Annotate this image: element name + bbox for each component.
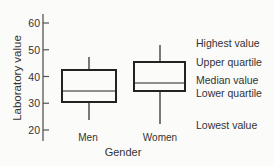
annotation-lower-quartile: Lower quartile xyxy=(196,87,262,99)
annotation-lowest-value: Lowest value xyxy=(196,119,257,131)
annotation-median-value: Median value xyxy=(196,74,259,86)
box-men xyxy=(62,57,116,120)
tick-label-50: 50 xyxy=(28,44,40,56)
tick-label-60: 60 xyxy=(28,17,40,29)
tick-label-30: 30 xyxy=(28,97,40,109)
box-women xyxy=(134,45,185,124)
category-label-men: Men xyxy=(78,132,97,143)
y-ticks xyxy=(43,23,49,130)
category-label-women: Women xyxy=(143,132,177,143)
tick-label-40: 40 xyxy=(28,71,40,83)
box-plot-chart: 60 50 40 30 20 Laboratory value Men Wome… xyxy=(0,0,274,166)
annotation-highest-value: Highest value xyxy=(196,37,260,49)
x-axis-label: Gender xyxy=(105,146,142,158)
y-axis-label: Laboratory value xyxy=(11,35,23,121)
tick-label-20: 20 xyxy=(28,124,40,136)
annotation-upper-quartile: Upper quartile xyxy=(196,56,262,68)
